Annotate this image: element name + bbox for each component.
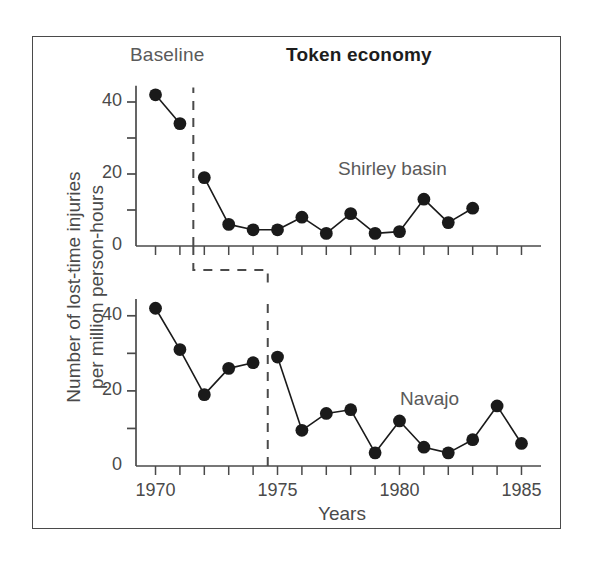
x-tick-label-1980: 1980 xyxy=(367,480,431,501)
y-tick-label-bottom-0: 0 xyxy=(80,454,122,475)
y-axis-title-line1: Number of lost-time injuries xyxy=(63,171,84,402)
figure-container: Baseline Token economy Shirley basin Nav… xyxy=(0,0,599,564)
data-point-top-1972[interactable] xyxy=(198,171,211,184)
x-axis-title: Years xyxy=(318,503,366,525)
x-tick-label-1970: 1970 xyxy=(124,480,188,501)
data-point-bottom-1972[interactable] xyxy=(198,388,211,401)
data-point-bottom-1970[interactable] xyxy=(149,302,162,315)
x-tick-label-1985: 1985 xyxy=(489,480,553,501)
data-point-top-1970[interactable] xyxy=(149,88,162,101)
phase-label-baseline: Baseline xyxy=(130,44,204,66)
data-point-top-1982[interactable] xyxy=(442,216,455,229)
data-point-bottom-1976[interactable] xyxy=(296,424,309,437)
data-point-bottom-1984[interactable] xyxy=(491,400,504,413)
data-point-top-1983[interactable] xyxy=(466,202,479,215)
y-tick-label-bottom-40: 40 xyxy=(80,304,122,325)
data-point-bottom-1983[interactable] xyxy=(466,433,479,446)
data-point-bottom-1975[interactable] xyxy=(271,351,284,364)
phase-label-token-economy: Token economy xyxy=(286,44,432,66)
data-point-top-1975[interactable] xyxy=(271,223,284,236)
y-axis-title-line2: per million person-hours xyxy=(86,185,107,389)
y-tick-label-top-20: 20 xyxy=(80,162,122,183)
data-point-top-1971[interactable] xyxy=(174,117,187,130)
x-tick-label-1975: 1975 xyxy=(246,480,310,501)
data-point-top-1976[interactable] xyxy=(296,211,309,224)
data-point-bottom-1981[interactable] xyxy=(417,441,430,454)
y-tick-label-bottom-20: 20 xyxy=(80,379,122,400)
data-point-top-1974[interactable] xyxy=(247,223,260,236)
data-point-bottom-1980[interactable] xyxy=(393,415,406,428)
series-label-navajo: Navajo xyxy=(400,388,459,410)
data-line-bottom-seg0 xyxy=(156,308,254,394)
data-point-bottom-1974[interactable] xyxy=(247,356,260,369)
data-point-top-1977[interactable] xyxy=(320,227,333,240)
data-point-bottom-1985[interactable] xyxy=(515,437,528,450)
data-line-top-seg1 xyxy=(204,178,472,234)
y-tick-label-top-0: 0 xyxy=(80,234,122,255)
data-point-top-1981[interactable] xyxy=(417,193,430,206)
data-point-bottom-1979[interactable] xyxy=(369,446,382,459)
data-point-bottom-1971[interactable] xyxy=(174,343,187,356)
y-tick-label-top-40: 40 xyxy=(80,90,122,111)
data-point-bottom-1978[interactable] xyxy=(344,403,357,416)
data-point-top-1980[interactable] xyxy=(393,225,406,238)
data-point-top-1978[interactable] xyxy=(344,207,357,220)
data-point-top-1973[interactable] xyxy=(222,218,235,231)
data-point-bottom-1973[interactable] xyxy=(222,362,235,375)
series-label-shirley-basin: Shirley basin xyxy=(338,158,447,180)
data-point-top-1979[interactable] xyxy=(369,227,382,240)
data-point-bottom-1982[interactable] xyxy=(442,446,455,459)
data-point-bottom-1977[interactable] xyxy=(320,407,333,420)
